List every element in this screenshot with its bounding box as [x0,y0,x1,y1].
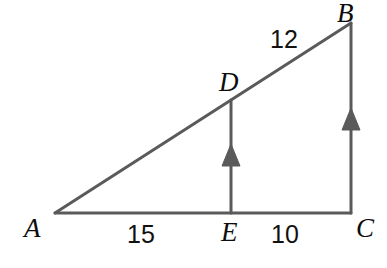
measure-label-ec: 10 [271,222,299,247]
geometry-figure: A B C D E 12 15 10 [0,0,387,268]
vertex-label-c: C [356,215,374,242]
vertex-label-d: D [219,69,239,96]
vertex-label-e: E [221,219,238,246]
vertex-label-a: A [24,215,41,242]
triangle-drawing-canvas [0,0,387,268]
arrow-up-icon-de [222,144,240,166]
segment-hypotenuse-ab [55,23,351,213]
measure-label-ae: 15 [127,222,155,247]
measure-label-db: 12 [270,27,298,52]
arrow-up-icon-bc [342,108,360,130]
vertex-label-b: B [337,0,354,27]
